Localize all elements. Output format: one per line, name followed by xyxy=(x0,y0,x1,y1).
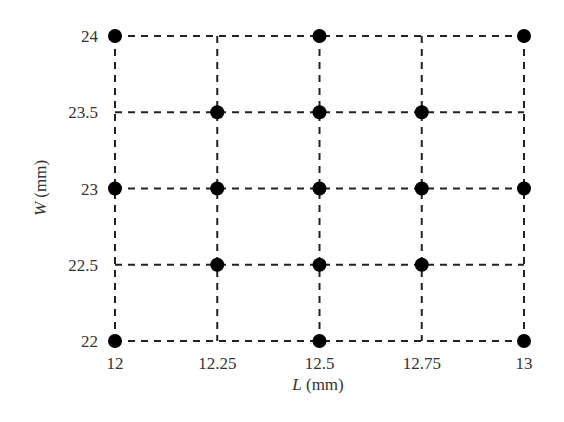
y-axis-label: W (mm) xyxy=(31,160,50,216)
data-point xyxy=(415,182,429,196)
y-tick-label: 23 xyxy=(81,180,98,199)
x-axis-label: L (mm) xyxy=(291,375,344,394)
data-point xyxy=(517,334,531,348)
data-point xyxy=(210,105,224,119)
data-point xyxy=(108,29,122,43)
y-axis-ticks: 2222.52323.524 xyxy=(68,27,98,351)
data-point xyxy=(313,182,327,196)
y-tick-label: 24 xyxy=(81,27,99,46)
data-point xyxy=(517,29,531,43)
y-tick-label: 22.5 xyxy=(68,256,98,275)
data-point xyxy=(415,105,429,119)
x-tick-label: 13 xyxy=(516,354,533,373)
data-point xyxy=(313,105,327,119)
x-tick-label: 12 xyxy=(107,354,124,373)
data-point xyxy=(108,334,122,348)
data-point xyxy=(415,258,429,272)
data-point xyxy=(313,334,327,348)
y-tick-label: 23.5 xyxy=(68,103,98,122)
data-point xyxy=(313,29,327,43)
data-point xyxy=(313,258,327,272)
x-tick-label: 12.75 xyxy=(403,354,441,373)
data-point xyxy=(210,182,224,196)
data-point xyxy=(517,182,531,196)
data-point xyxy=(210,258,224,272)
x-axis-ticks: 1212.2512.512.7513 xyxy=(107,354,533,373)
x-tick-label: 12.25 xyxy=(198,354,236,373)
data-point xyxy=(108,182,122,196)
y-tick-label: 22 xyxy=(81,332,98,351)
design-points-chart: 2222.52323.524 1212.2512.512.7513 L (mm)… xyxy=(0,0,564,422)
x-tick-label: 12.5 xyxy=(305,354,335,373)
